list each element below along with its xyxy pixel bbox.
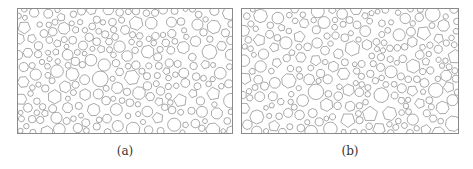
polygon-particle (112, 59, 120, 67)
circle-particle (447, 95, 458, 106)
circle-particle (24, 123, 29, 128)
circle-particle (42, 85, 49, 92)
polygon-particle (30, 85, 36, 90)
circle-particle (280, 37, 292, 49)
polygon-particle (295, 110, 305, 120)
polygon-particle (429, 115, 437, 122)
polygon-particle (74, 49, 80, 55)
circle-particle (166, 17, 176, 27)
polygon-particle (160, 32, 165, 38)
polygon-particle (242, 73, 251, 84)
circle-particle (165, 59, 173, 67)
polygon-particle (399, 110, 405, 116)
circle-particle (135, 102, 140, 107)
polygon-particle (387, 56, 393, 63)
polygon-particle (332, 24, 338, 30)
polygon-particle (146, 93, 155, 101)
circle-particle (30, 69, 41, 80)
polygon-particle (183, 9, 188, 12)
polygon-particle (168, 29, 176, 37)
polygon-particle (110, 26, 116, 33)
polygon-particle (264, 128, 269, 133)
polygon-particle (178, 109, 184, 115)
polygon-particle (328, 61, 338, 72)
polygon-particle (248, 46, 254, 52)
circle-particle (340, 21, 346, 27)
circle-particle (426, 51, 431, 56)
polygon-particle (311, 56, 322, 66)
circle-particle (287, 124, 293, 130)
polygon-particle (341, 129, 346, 133)
circle-particle (346, 16, 353, 23)
circle-particle (102, 31, 109, 38)
circle-particle (435, 76, 441, 81)
polygon-particle (190, 62, 197, 69)
circle-particle (36, 82, 41, 87)
circle-particle (267, 113, 272, 118)
polygon-particle (210, 62, 215, 67)
circle-particle (156, 87, 165, 95)
polygon-particle (112, 82, 124, 93)
polygon-particle (441, 70, 452, 81)
circle-particle (171, 9, 178, 14)
polygon-particle (225, 49, 232, 60)
polygon-particle (383, 82, 389, 87)
polygon-particle (323, 59, 328, 65)
circle-particle (272, 12, 284, 24)
polygon-particle (286, 12, 292, 18)
circle-particle (192, 19, 203, 30)
polygon-particle (397, 84, 406, 93)
polygon-particle (248, 21, 254, 27)
circle-particle (429, 23, 435, 29)
polygon-particle (190, 36, 200, 47)
circle-particle (355, 111, 361, 117)
circle-particle (69, 36, 77, 44)
polygon-particle (439, 63, 445, 68)
circle-particle (195, 11, 202, 18)
polygon-particle (219, 83, 225, 89)
circle-particle (274, 34, 281, 41)
circle-particle (51, 65, 64, 78)
circle-particle (139, 68, 145, 74)
polygon-particle (261, 82, 269, 90)
polygon-particle (393, 124, 399, 130)
polygon-particle (321, 98, 333, 111)
polygon-particle (163, 68, 170, 75)
polygon-particle (343, 84, 354, 96)
polygon-particle (246, 89, 251, 94)
polygon-particle (379, 31, 385, 37)
polygon-particle (436, 101, 449, 114)
polygon-particle (189, 89, 197, 97)
polygon-particle (387, 122, 392, 127)
polygon-particle (151, 40, 157, 46)
circle-particle (228, 109, 232, 114)
circle-particle (154, 73, 160, 79)
circle-particle (98, 59, 110, 71)
polygon-particle (177, 42, 189, 54)
polygon-particle (332, 17, 338, 22)
polygon-particle (350, 9, 361, 15)
polygon-particle (111, 52, 117, 58)
polygon-particle (246, 95, 253, 101)
polygon-particle (296, 44, 302, 50)
circle-particle (143, 73, 150, 80)
polygon-particle (379, 75, 385, 81)
circle-particle (454, 18, 458, 24)
polygon-particle (417, 9, 424, 12)
polygon-particle (97, 45, 104, 52)
polygon-particle (90, 46, 95, 51)
polygon-particle (37, 116, 44, 123)
polygon-particle (53, 40, 60, 47)
polygon-particle (434, 34, 443, 43)
polygon-particle (362, 40, 372, 50)
circle-particle (224, 118, 231, 125)
polygon-particle (407, 59, 420, 73)
circle-particle (228, 21, 232, 28)
circle-particle (403, 103, 409, 108)
circle-particle (143, 82, 151, 90)
polygon-particle (420, 69, 426, 75)
circle-particle (334, 92, 343, 101)
polygon-particle (388, 20, 394, 25)
circle-particle (252, 85, 258, 91)
circle-particle (325, 91, 332, 98)
